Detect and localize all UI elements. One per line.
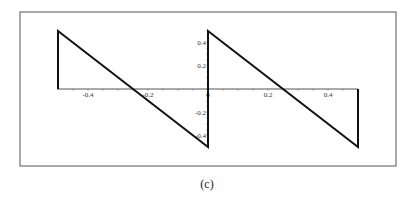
y-tick-label: 0.2 [197, 62, 206, 70]
y-tick-label: 0.4 [197, 39, 206, 47]
sawtooth-chart: -0.4-0.200.20.40.40.2-0.2-0.4 [0, 0, 414, 205]
y-tick-label: -0.2 [195, 109, 207, 117]
x-tick-label: 0.2 [264, 91, 273, 99]
figure-caption: (c) [0, 177, 414, 192]
x-tick-label: -0.4 [82, 91, 94, 99]
x-tick-label: 0.4 [324, 91, 333, 99]
